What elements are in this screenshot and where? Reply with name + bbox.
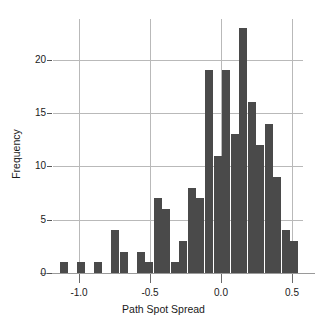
x-tick-mark--0.5: [150, 274, 151, 283]
x-tick-mark-0.0: [221, 274, 222, 283]
histogram-chart: 05101520 -1.0-0.50.00.5 Path Spot Spread…: [0, 0, 327, 335]
x-tick-mark-0.5: [292, 274, 293, 283]
y-axis-title: Frequency: [10, 104, 22, 204]
x-tick-label-0.5: 0.5: [272, 288, 312, 298]
x-tick-mark--1.0: [79, 274, 80, 283]
x-axis-tick-labels: -1.0-0.50.00.5: [0, 0, 327, 335]
x-tick-label--1.0: -1.0: [59, 288, 99, 298]
x-axis-title: Path Spot Spread: [0, 303, 327, 315]
x-tick-label--0.5: -0.5: [130, 288, 170, 298]
x-tick-label-0.0: 0.0: [201, 288, 241, 298]
